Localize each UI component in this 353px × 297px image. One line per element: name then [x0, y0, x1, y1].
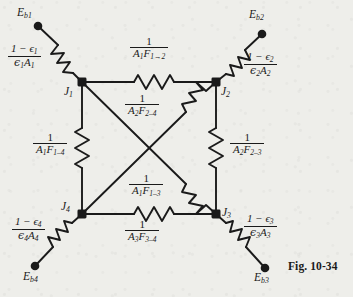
- space-resistance-label-1-3: 1 A1F1–3: [129, 173, 163, 198]
- terminal-label-eb2: Eb2: [249, 8, 264, 22]
- surface-resistance-label-3: 1 − ϵ3 ϵ3A3: [244, 213, 277, 239]
- resistor-1-2-zigzag: [134, 75, 174, 89]
- radiation-network-figure: Eb1 Eb2 Eb3 Eb4 J1 J2 J3 J4 1 − ϵ1 ϵ1A1 …: [0, 0, 353, 297]
- resistor-surface-4-zigzag: [48, 221, 72, 247]
- surface-resistance-label-1: 1 − ϵ1 ϵ1A1: [8, 43, 41, 69]
- terminal-dot-eb4: [31, 262, 40, 271]
- terminal-label-eb4: Eb4: [23, 270, 38, 284]
- space-resistance-label-3-4: 1 A3F3–4: [125, 219, 159, 244]
- node-dot-j2: [212, 78, 221, 87]
- resistor-2-4-zigzag: [182, 82, 216, 112]
- space-resistance-label-1-4: 1 A1F1–4: [33, 132, 67, 157]
- node-dot-j4: [78, 210, 87, 219]
- terminal-dot-eb2: [258, 30, 267, 39]
- terminal-label-eb1: Eb1: [17, 6, 32, 20]
- space-resistance-label-2-4: 1 A2F2–4: [125, 93, 159, 118]
- node-label-j3: J3: [222, 206, 231, 220]
- resistor-1-3-zigzag: [182, 184, 216, 214]
- space-resistance-label-2-3: 1 A2F2–3: [230, 132, 264, 157]
- resistor-surface-1-zigzag: [51, 45, 73, 73]
- figure-caption: Fig. 10-34: [288, 260, 338, 272]
- surface-resistance-label-2: 1 − ϵ2 ϵ2A2: [244, 51, 277, 77]
- node-dot-j3: [212, 210, 221, 219]
- space-resistance-label-1-2: 1 A1F1→2: [130, 36, 168, 61]
- node-label-j1: J1: [64, 85, 73, 99]
- node-dot-j1: [78, 78, 87, 87]
- terminal-dot-eb1: [34, 22, 43, 31]
- node-label-j4: J4: [61, 200, 70, 214]
- node-label-j2: J2: [221, 85, 230, 99]
- terminal-label-eb3: Eb3: [254, 271, 269, 285]
- resistor-1-4-zigzag: [75, 128, 89, 168]
- resistor-2-3-zigzag: [209, 128, 223, 168]
- surface-resistance-label-4: 1 − ϵ4 ϵ4A4: [12, 216, 45, 242]
- diagonal-j4-j2: [82, 112, 186, 214]
